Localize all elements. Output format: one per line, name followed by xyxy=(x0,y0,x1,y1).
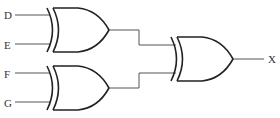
xor-gate-1 xyxy=(47,8,109,52)
wire-g1-to-g3 xyxy=(109,30,176,45)
input-label-d: D xyxy=(4,9,12,21)
input-label-f: F xyxy=(4,68,10,80)
input-label-g: G xyxy=(4,97,12,109)
wire-g2-to-g3 xyxy=(109,73,176,88)
xor-gate-2 xyxy=(47,66,109,110)
logic-circuit-diagram: D E F G X xyxy=(0,0,280,118)
output-label-x: X xyxy=(268,53,276,65)
xor-gate-3 xyxy=(171,37,233,81)
input-label-e: E xyxy=(4,39,11,51)
